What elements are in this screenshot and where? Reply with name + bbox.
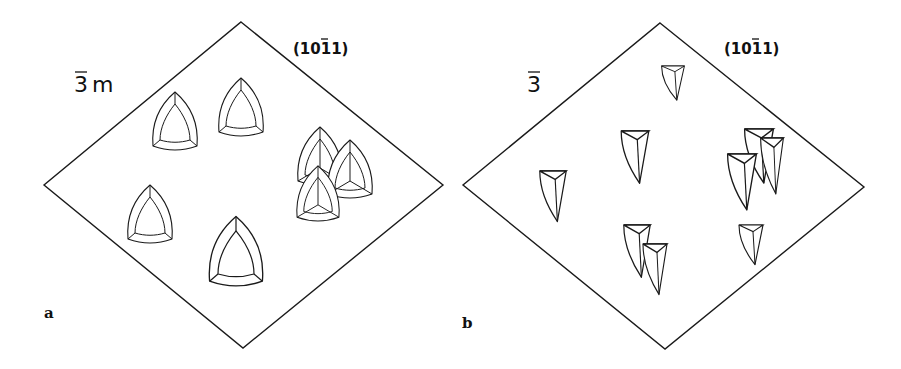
etch-pits-b: [540, 66, 784, 294]
panel-label-b: b: [462, 314, 473, 332]
miller-index-label-b: (1011): [724, 39, 779, 58]
etch-pit-figure: 3 m (1011) a 3 (1: [0, 0, 901, 369]
crystal-face-diamond-a: [44, 22, 443, 348]
etch-pit: [739, 225, 763, 265]
etch-pit: [153, 92, 198, 150]
svg-text:(1011): (1011): [724, 40, 779, 58]
panel-label-a: a: [44, 304, 54, 322]
etch-pit: [219, 78, 264, 136]
symmetry-label-a: 3 m: [74, 72, 113, 97]
panel-b: 3 (1011) b: [462, 23, 864, 349]
etch-pit: [728, 154, 757, 210]
etch-pit: [761, 138, 784, 194]
etch-pit: [643, 244, 667, 294]
svg-text:3: 3: [74, 72, 88, 97]
etch-pit: [128, 185, 173, 243]
svg-text:3: 3: [527, 72, 541, 97]
etch-pit: [209, 216, 262, 285]
miller-index-label-a: (1011): [293, 39, 348, 58]
etch-pit: [540, 171, 566, 221]
svg-text:(1011): (1011): [293, 40, 348, 58]
symmetry-label-b: 3: [527, 72, 541, 97]
panel-a: 3 m (1011) a: [44, 22, 443, 348]
etch-pit: [662, 66, 685, 100]
etch-pit: [621, 131, 649, 183]
svg-text:m: m: [92, 72, 113, 97]
etch-pits-a: [128, 78, 373, 286]
